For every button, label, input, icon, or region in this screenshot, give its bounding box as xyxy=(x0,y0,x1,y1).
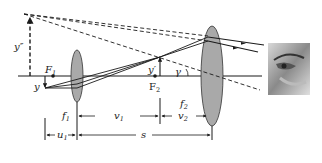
angle-arc xyxy=(186,69,188,76)
label-v2: v2 xyxy=(178,110,188,123)
virtual-ray-3 xyxy=(24,14,260,90)
ray-e xyxy=(160,41,208,57)
label-f1: f1 xyxy=(61,110,70,123)
label-u1: u1 xyxy=(57,129,68,142)
label-object: y xyxy=(33,81,40,92)
eyepiece-lens xyxy=(201,26,223,126)
label-s: s xyxy=(141,129,146,140)
microscope-diagram: y″ F1 y y′ F2 γ f1 f2 v1 v2 u1 s xyxy=(0,0,322,163)
observer-eye-image xyxy=(268,43,310,95)
label-angle: γ xyxy=(175,66,181,77)
label-final-image: y″ xyxy=(13,41,24,52)
label-v1: v1 xyxy=(114,110,124,123)
objective-lens xyxy=(71,50,83,102)
label-f2-point: F2 xyxy=(149,81,160,94)
ray-c xyxy=(45,57,160,88)
ray-d xyxy=(160,37,208,57)
virtual-ray-2 xyxy=(24,14,208,41)
label-intermediate-image: y′ xyxy=(147,64,157,75)
virtual-ray-1 xyxy=(24,14,208,36)
label-f1-point: F1 xyxy=(44,64,56,77)
